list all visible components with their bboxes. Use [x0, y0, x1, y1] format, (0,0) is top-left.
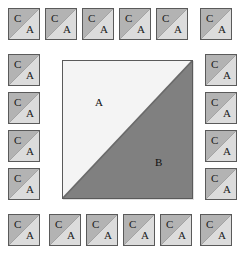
tile: CA	[205, 168, 237, 200]
tile-label-c: C	[206, 219, 213, 230]
tile-label-c: C	[14, 135, 21, 146]
tile-label-a: A	[223, 184, 231, 195]
tile: CA	[49, 214, 81, 246]
tile-label-c: C	[14, 219, 21, 230]
tile: CA	[8, 54, 40, 86]
tile-label-c: C	[211, 97, 218, 108]
tile-label-c: C	[166, 219, 173, 230]
tile: CA	[200, 214, 232, 246]
tile: CA	[205, 92, 237, 124]
tile-label-a: A	[104, 230, 112, 241]
tile: CA	[8, 92, 40, 124]
tile-label-a: A	[26, 24, 34, 35]
tile-label-a: A	[218, 24, 226, 35]
tile-label-c: C	[211, 173, 218, 184]
tile-label-a: A	[223, 108, 231, 119]
large-square-label-b: B	[155, 157, 162, 168]
tile-label-c: C	[14, 97, 21, 108]
tile: CA	[8, 8, 40, 40]
tile-label-a: A	[26, 108, 34, 119]
tile-label-a: A	[178, 230, 186, 241]
tile-label-a: A	[218, 230, 226, 241]
tile-label-a: A	[174, 24, 182, 35]
tile: CA	[205, 54, 237, 86]
tile-label-a: A	[137, 24, 145, 35]
large-square-label-a: A	[95, 97, 103, 108]
tile: CA	[156, 8, 188, 40]
tile-label-c: C	[14, 13, 21, 24]
tile-label-c: C	[129, 219, 136, 230]
large-square: A B	[62, 60, 193, 199]
tile-label-a: A	[100, 24, 108, 35]
tile-label-a: A	[26, 230, 34, 241]
tile: CA	[8, 168, 40, 200]
tile-label-a: A	[141, 230, 149, 241]
tile: CA	[200, 8, 232, 40]
tile: CA	[86, 214, 118, 246]
tile: CA	[8, 130, 40, 162]
tile-label-c: C	[206, 13, 213, 24]
tile-label-c: C	[125, 13, 132, 24]
pythagorean-tiling-figure: CACACACACACACACACACACACACACACACACACACACA…	[0, 0, 246, 260]
large-square-diagonal-line	[63, 61, 192, 198]
tile-label-a: A	[26, 184, 34, 195]
tile-label-c: C	[211, 135, 218, 146]
tile-label-c: C	[51, 13, 58, 24]
tile-label-a: A	[63, 24, 71, 35]
tile-label-a: A	[67, 230, 75, 241]
tile-label-c: C	[14, 173, 21, 184]
tile-label-a: A	[26, 146, 34, 157]
tile-label-c: C	[211, 59, 218, 70]
tile: CA	[123, 214, 155, 246]
tile-label-c: C	[92, 219, 99, 230]
tile: CA	[119, 8, 151, 40]
tile-label-a: A	[26, 70, 34, 81]
tile: CA	[45, 8, 77, 40]
tile-label-a: A	[223, 146, 231, 157]
tile-label-c: C	[162, 13, 169, 24]
tile-label-c: C	[88, 13, 95, 24]
tile: CA	[205, 130, 237, 162]
tile-label-a: A	[223, 70, 231, 81]
tile: CA	[82, 8, 114, 40]
tile: CA	[8, 214, 40, 246]
tile: CA	[160, 214, 192, 246]
tile-label-c: C	[55, 219, 62, 230]
tile-label-c: C	[14, 59, 21, 70]
